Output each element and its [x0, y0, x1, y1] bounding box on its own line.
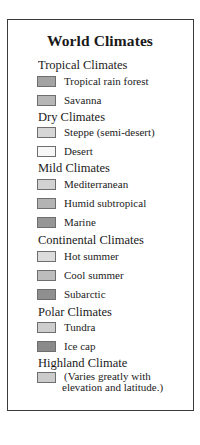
color-swatch: [37, 95, 56, 106]
legend-item-hot-summer: Hot summer: [37, 249, 119, 263]
group-header-polar: Polar Climates: [38, 305, 112, 319]
legend-item-steppe: Steppe (semi-desert): [37, 125, 155, 139]
color-swatch: [37, 289, 56, 300]
group-header-continental: Continental Climates: [38, 233, 144, 247]
color-swatch: [37, 322, 56, 333]
legend-item-label-line1: (Varies greatly with: [64, 371, 163, 382]
group-header-tropical: Tropical Climates: [38, 58, 127, 72]
legend-item-label: Mediterranean: [64, 178, 128, 190]
legend-item-mediterranean: Mediterranean: [37, 177, 128, 191]
legend-item-label: Tundra: [64, 321, 95, 333]
color-swatch: [37, 217, 56, 228]
legend-item-label: Ice cap: [64, 340, 95, 352]
legend-item-label: Desert: [64, 145, 93, 157]
color-swatch: [37, 341, 56, 352]
legend-item-humid-subtropical: Humid subtropical: [37, 196, 146, 210]
legend-item-label: Tropical rain forest: [64, 75, 149, 87]
legend-item-label: Steppe (semi-desert): [64, 126, 155, 138]
legend-item-label: Subarctic: [64, 288, 106, 300]
legend-item-tropical-rain-forest: Tropical rain forest: [37, 74, 149, 88]
color-swatch: [37, 270, 56, 281]
legend-item-highland: (Varies greatly with elevation and latit…: [37, 371, 163, 397]
color-swatch: [37, 179, 56, 190]
legend-item-label: Marine: [64, 216, 96, 228]
legend-item-label: Hot summer: [64, 250, 119, 262]
group-header-dry: Dry Climates: [38, 110, 105, 124]
color-swatch: [37, 76, 56, 87]
legend-item-label: Humid subtropical: [64, 197, 146, 209]
group-header-mild: Mild Climates: [38, 161, 110, 175]
color-swatch: [37, 146, 56, 157]
legend-item-label-line2: elevation and latitude.): [62, 382, 163, 393]
color-swatch: [37, 251, 56, 262]
color-swatch: [37, 198, 56, 209]
color-swatch: [37, 372, 56, 383]
color-swatch: [37, 127, 56, 138]
legend-item-ice-cap: Ice cap: [37, 339, 95, 353]
legend-item-marine: Marine: [37, 215, 96, 229]
legend-item-savanna: Savanna: [37, 93, 101, 107]
legend-item-label: Cool summer: [64, 269, 124, 281]
group-header-highland: Highland Climate: [38, 356, 127, 370]
legend-item-desert: Desert: [37, 144, 93, 158]
legend-item-tundra: Tundra: [37, 320, 95, 334]
legend-title: World Climates: [0, 32, 200, 50]
legend-item-label: (Varies greatly with elevation and latit…: [64, 371, 163, 392]
legend-item-subarctic: Subarctic: [37, 287, 106, 301]
legend-item-cool-summer: Cool summer: [37, 268, 124, 282]
legend-item-label: Savanna: [64, 94, 101, 106]
